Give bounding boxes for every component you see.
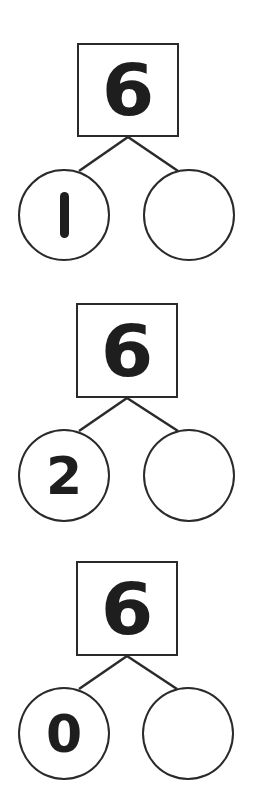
whole-box: 6 bbox=[76, 561, 178, 656]
connector-line-left bbox=[79, 656, 127, 689]
part-value-left: 1 bbox=[60, 192, 69, 238]
whole-box: 6 bbox=[76, 303, 178, 398]
part-circle-left[interactable]: 2 bbox=[18, 429, 110, 522]
part-value-left: 2 bbox=[46, 450, 82, 502]
connector-line-right bbox=[128, 137, 178, 171]
connector-line-left bbox=[79, 398, 127, 431]
part-value-left: 0 bbox=[46, 708, 82, 760]
part-circle-right-blank[interactable] bbox=[142, 687, 234, 780]
connector-line-right bbox=[127, 656, 177, 689]
connector-line-left bbox=[79, 137, 128, 171]
part-circle-right-blank[interactable] bbox=[143, 429, 235, 522]
whole-box: 6 bbox=[77, 43, 179, 137]
part-circle-right-blank[interactable] bbox=[143, 169, 235, 261]
part-circle-left[interactable]: 0 bbox=[18, 687, 110, 780]
whole-value: 6 bbox=[101, 573, 154, 645]
whole-value: 6 bbox=[101, 315, 154, 387]
connector-line-right bbox=[127, 398, 178, 431]
whole-value: 6 bbox=[102, 54, 155, 126]
part-circle-left[interactable]: 1 bbox=[18, 169, 110, 261]
